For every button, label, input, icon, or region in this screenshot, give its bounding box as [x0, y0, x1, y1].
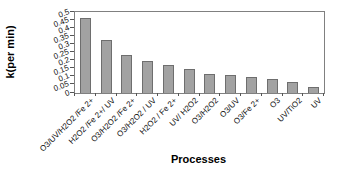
bar-0: [80, 18, 91, 93]
x-tick-mark: [282, 93, 283, 96]
y-tick-mark: [70, 19, 74, 20]
x-tick-mark: [199, 93, 200, 96]
x-tick-mark: [261, 93, 262, 96]
bar-5: [184, 69, 195, 93]
y-tick-mark: [70, 27, 74, 28]
bar-7: [225, 75, 236, 93]
bar-8: [246, 77, 257, 93]
y-tick-mark: [70, 59, 74, 60]
y-tick-mark: [70, 35, 74, 36]
x-tick-mark: [95, 93, 96, 96]
x-category-label: O3: [269, 96, 283, 110]
x-tick-mark: [302, 93, 303, 96]
y-tick-mark: [70, 11, 74, 12]
bar-9: [267, 79, 278, 93]
y-tick-mark: [70, 43, 74, 44]
x-tick-mark: [74, 93, 75, 96]
bar-6: [204, 74, 215, 93]
bar-chart-figure: k(per min) Processes 00.050.10.150.20.25…: [0, 0, 340, 178]
x-axis-title: Processes: [74, 153, 323, 165]
y-axis-title: k(per min): [4, 25, 16, 78]
bar-3: [142, 61, 153, 93]
bar-10: [287, 82, 298, 93]
y-tick-mark: [70, 83, 74, 84]
y-tick-mark: [70, 51, 74, 52]
x-tick-mark: [323, 93, 324, 96]
x-tick-mark: [219, 93, 220, 96]
bar-11: [308, 87, 319, 93]
bar-1: [101, 40, 112, 93]
x-tick-mark: [136, 93, 137, 96]
bar-4: [163, 65, 174, 93]
y-axis-title-box: k(per min): [2, 11, 18, 92]
y-tick-mark: [70, 67, 74, 68]
x-tick-mark: [240, 93, 241, 96]
bar-2: [121, 55, 132, 93]
x-tick-mark: [157, 93, 158, 96]
x-category-label: UV: [310, 96, 324, 110]
x-tick-mark: [116, 93, 117, 96]
y-tick-mark: [70, 75, 74, 76]
x-tick-mark: [178, 93, 179, 96]
plot-area: [74, 11, 325, 94]
